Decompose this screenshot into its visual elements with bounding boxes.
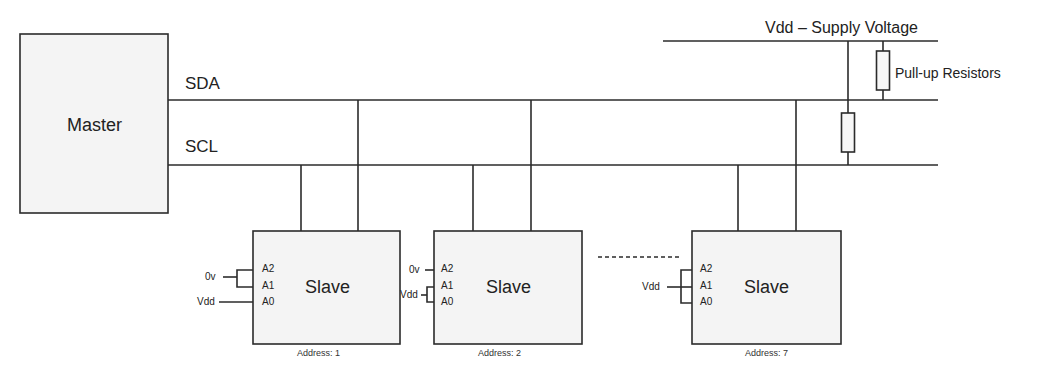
slave2-pin-a2: A2 (441, 264, 453, 274)
scl-pullup-resistor (842, 113, 855, 152)
slave1-a2-a1-tie (237, 270, 253, 287)
slave7-address: Address: 7 (745, 349, 788, 358)
master-label: Master (67, 116, 122, 134)
slave1-address: Address: 1 (297, 349, 340, 358)
slave2-pin-a1: A1 (441, 281, 453, 291)
diagram-canvas (0, 0, 1043, 377)
sda-pullup-resistor (877, 51, 890, 90)
slave7-pin-a2: A2 (700, 264, 712, 274)
vdd-supply-label: Vdd – Supply Voltage (765, 20, 918, 36)
slave2-label: Slave (486, 278, 531, 296)
slave7-pin-a1: A1 (700, 281, 712, 291)
slave7-pin-a0: A0 (700, 297, 712, 307)
slave2-pin-a0: A0 (441, 297, 453, 307)
scl-label: SCL (185, 138, 218, 155)
sda-label: SDA (185, 75, 220, 92)
slave1-vdd-label: Vdd (197, 297, 215, 307)
slave2-vdd-label: Vdd (400, 290, 418, 300)
slave2-0v-label: 0v (409, 265, 420, 275)
slave1-label: Slave (305, 278, 350, 296)
slave7-label: Slave (744, 278, 789, 296)
slave7-vdd-label: Vdd (642, 282, 660, 292)
slave1-pin-a2: A2 (262, 264, 274, 274)
slave1-pin-a0: A0 (262, 297, 274, 307)
slave2-address: Address: 2 (478, 349, 521, 358)
slave1-pin-a1: A1 (262, 281, 274, 291)
pull-up-resistors-label: Pull-up Resistors (895, 66, 1001, 80)
slave2-a1-a0-tie (427, 287, 434, 302)
slave1-0v-label: 0v (205, 272, 216, 282)
